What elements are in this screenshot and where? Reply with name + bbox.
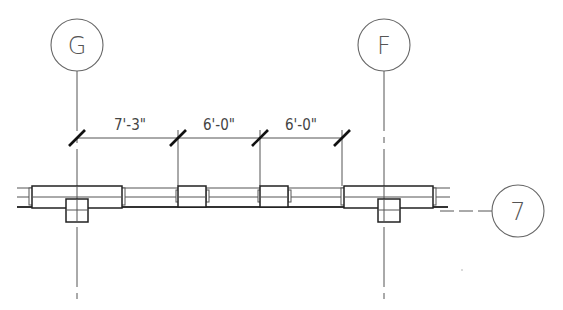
column-g[interactable] <box>66 199 88 222</box>
beam-segment-3[interactable] <box>258 186 291 207</box>
grid-bubble-g-label: G <box>68 32 87 60</box>
dimension-label-2[interactable]: 6'-0" <box>203 116 235 134</box>
grid-bubble-g[interactable]: G <box>51 19 103 71</box>
stray-mark <box>461 269 462 270</box>
beam-segment-2[interactable] <box>176 186 209 207</box>
dimension-string: 7'-3" 6'-0" 6'-0" <box>69 116 350 186</box>
dimension-label-1[interactable]: 7'-3" <box>114 116 146 134</box>
grid-bubble-f[interactable]: F <box>358 19 410 71</box>
grid-bubble-f-label: F <box>377 32 391 60</box>
dimension-label-3[interactable]: 6'-0" <box>285 116 317 134</box>
grid-bubble-7[interactable]: 7 <box>492 185 544 237</box>
grid-bubble-7-label: 7 <box>510 198 525 226</box>
column-f[interactable] <box>378 199 400 222</box>
structural-plan-drawing: G F 7'-3" 6'-0" 6'-0" <box>0 0 563 310</box>
